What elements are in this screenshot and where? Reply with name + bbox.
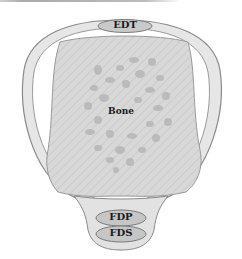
fdp-label: FDP: [101, 211, 141, 222]
edt-label: EDT: [105, 19, 145, 30]
bone-label: Bone: [100, 106, 142, 116]
bone: [47, 36, 201, 196]
fds-label: FDS: [101, 227, 141, 238]
